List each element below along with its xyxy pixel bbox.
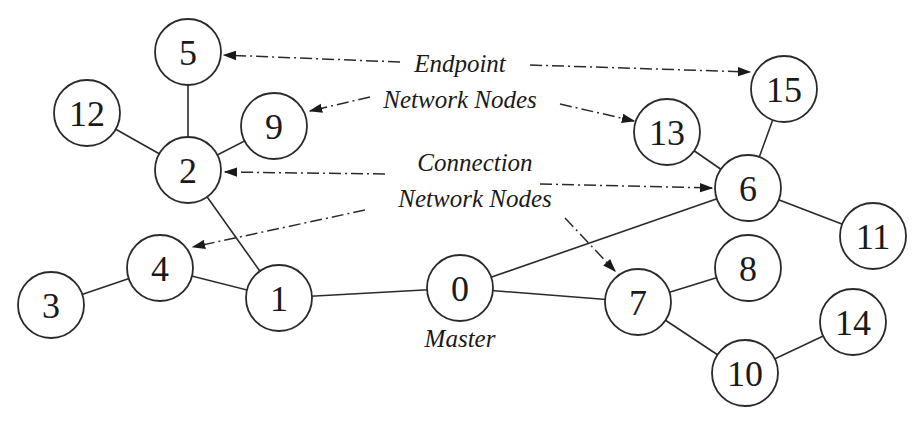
arrow-endpoint-to-13 [560,104,634,121]
node-15: 15 [751,56,817,122]
node-11: 11 [840,203,906,269]
arrow-connection-to-7 [565,218,615,271]
node-label: 10 [727,354,763,394]
node-label: 12 [69,94,105,134]
node-label: 13 [649,113,685,153]
endpoint-label-line2: Network Nodes [382,86,536,113]
node-0: 0 [427,255,493,321]
master-caption: Master [424,325,496,352]
node-label: 5 [179,33,197,73]
node-9: 9 [241,93,307,159]
arrow-endpoint-to-5 [224,55,400,62]
node-4: 4 [127,235,193,301]
node-2: 2 [155,137,221,203]
node-label: 4 [151,249,169,289]
node-12: 12 [54,80,120,146]
node-label: 2 [179,151,197,191]
node-label: 15 [766,70,802,110]
node-label: 7 [629,283,647,323]
node-5: 5 [155,19,221,85]
connection-label-line2: Network Nodes [397,185,551,212]
arrow-connection-to-6 [540,184,712,188]
node-label: 9 [265,107,283,147]
network-diagram: Endpoint Network Nodes Connection Networ… [0,0,921,426]
node-label: 1 [270,279,288,319]
arrow-endpoint-to-9 [310,97,370,111]
endpoint-label-line1: Endpoint [413,50,507,77]
arrow-endpoint-to-15 [530,65,750,72]
node-label: 6 [739,169,757,209]
node-label: 0 [451,269,469,309]
node-3: 3 [18,272,84,338]
node-label: 14 [835,303,871,343]
node-6: 6 [715,155,781,221]
arrow-connection-to-4 [193,210,365,247]
node-label: 8 [739,249,757,289]
node-label: 3 [42,286,60,326]
annotation-endpoint: Endpoint Network Nodes [382,50,536,113]
annotation-connection: Connection Network Nodes [397,149,551,212]
connection-label-line1: Connection [417,149,532,176]
arrow-connection-to-2 [225,172,385,174]
node-10: 10 [712,340,778,406]
node-label: 11 [856,217,891,257]
node-8: 8 [715,235,781,301]
node-7: 7 [605,269,671,335]
node-13: 13 [634,99,700,165]
node-1: 1 [246,265,312,331]
node-14: 14 [820,289,886,355]
